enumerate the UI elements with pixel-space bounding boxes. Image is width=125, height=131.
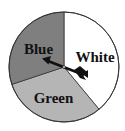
spinner-diagram: Blue White Green bbox=[0, 0, 125, 131]
label-white: White bbox=[75, 49, 115, 65]
label-green: Green bbox=[34, 90, 74, 106]
label-blue: Blue bbox=[24, 41, 54, 57]
